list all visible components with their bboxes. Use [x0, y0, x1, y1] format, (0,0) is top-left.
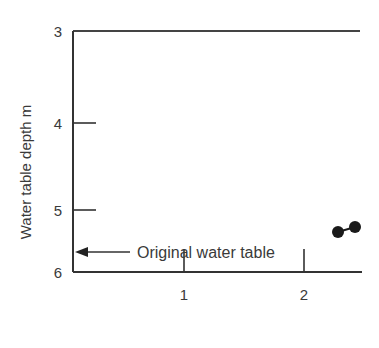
y-tick-label-5: 5 [54, 202, 62, 219]
chart: 3 4 5 6 1 2 Water table depth m Original… [0, 0, 379, 348]
y-axis-label: Water table depth m [17, 105, 34, 240]
y-tick-label-6: 6 [54, 264, 62, 281]
x-tick-label-1: 1 [180, 286, 188, 303]
y-tick-label-3: 3 [54, 23, 62, 40]
annotation-original-water-table: Original water table [137, 244, 275, 261]
data-point-2 [349, 221, 361, 233]
arrow-left-icon [75, 247, 88, 257]
y-tick-label-4: 4 [54, 115, 62, 132]
data-point-1 [332, 226, 344, 238]
x-tick-label-2: 2 [300, 286, 308, 303]
